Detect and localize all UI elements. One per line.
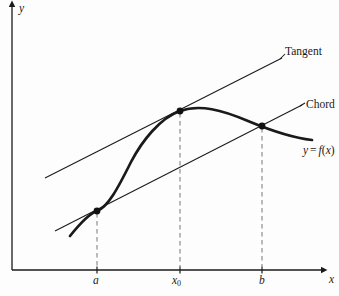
tick-label-x0-subscript: 0: [177, 279, 181, 288]
function-label-paren-close: ): [331, 144, 335, 156]
point-at-b: [259, 123, 266, 130]
point-at-x0: [177, 108, 184, 115]
function-label: y=f(x): [303, 145, 335, 157]
function-curve: [70, 108, 312, 236]
tangent-line: [45, 58, 282, 178]
tangent-label: Tangent: [285, 46, 322, 58]
chord-leader-line: [300, 103, 305, 106]
point-at-a: [94, 208, 101, 215]
tick-label-a: a: [93, 275, 99, 287]
function-label-y: y: [303, 144, 308, 156]
figure-mean-value-theorem: Tangent Chord y=f(x) y x a x0 b: [0, 0, 339, 296]
y-axis-label: y: [19, 3, 24, 15]
tick-label-b: b: [259, 275, 265, 287]
function-label-equals: =: [310, 144, 317, 156]
x-axis-label: x: [329, 274, 334, 286]
tick-label-x0: x0: [172, 275, 181, 288]
chord-label: Chord: [306, 99, 335, 111]
